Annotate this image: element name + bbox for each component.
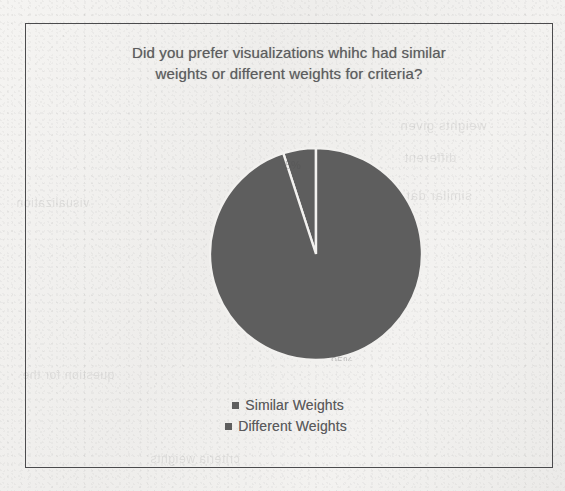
legend-swatch-icon [225, 423, 232, 430]
pie-slices [210, 148, 422, 360]
slice-percent-different-weights: 95% [331, 355, 353, 361]
pie-chart-svg: 5% 95% [209, 147, 423, 361]
chart-title-line-2: weights or different weights for criteri… [26, 63, 552, 84]
chart-title: Did you prefer visualizations whihc had … [26, 42, 552, 84]
chart-frame: Did you prefer visualizations whihc had … [25, 23, 553, 468]
pie-chart: 5% 95% [209, 147, 423, 361]
slice-percent-similar-weights: 5% [285, 159, 301, 171]
chart-title-line-1: Did you prefer visualizations whihc had … [26, 42, 552, 63]
legend-swatch-icon [232, 402, 239, 409]
legend-label: Different Weights [238, 417, 347, 436]
legend-item-similar-weights[interactable]: Similar Weights [232, 396, 344, 415]
pie-slice[interactable] [210, 148, 422, 360]
legend-label: Similar Weights [245, 396, 344, 415]
legend-item-different-weights[interactable]: Different Weights [225, 417, 347, 436]
legend: Similar Weights Different Weights [26, 396, 552, 436]
